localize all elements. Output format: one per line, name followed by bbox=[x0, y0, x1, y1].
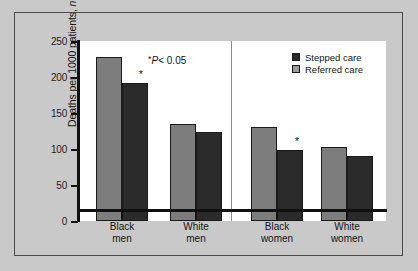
x-tick-black-men bbox=[121, 212, 123, 218]
legend-item-stepped-care: Stepped care bbox=[292, 51, 363, 63]
y-axis-line bbox=[77, 40, 80, 222]
y-tick-label: 150 bbox=[51, 108, 67, 119]
x-label-line-1: Black bbox=[110, 221, 134, 233]
x-label-white-men: White men bbox=[183, 221, 209, 244]
figure-panel: 0 50 100 150 200 250 * bbox=[14, 12, 403, 256]
legend-swatch-icon-referred bbox=[292, 65, 300, 73]
legend-swatch-icon-stepped bbox=[292, 53, 300, 61]
legend-label-stepped: Stepped care bbox=[305, 52, 362, 63]
x-axis-line bbox=[77, 209, 387, 212]
x-label-line-2: women bbox=[331, 233, 363, 245]
x-tick-white-women bbox=[346, 212, 348, 218]
bar-black-women-referred bbox=[251, 127, 277, 221]
x-label-line-1: White bbox=[331, 221, 363, 233]
x-label-black-women: Black women bbox=[261, 221, 293, 244]
x-tick-black-women bbox=[276, 212, 278, 218]
y-tick-label: 50 bbox=[56, 180, 67, 191]
x-tick-white-men bbox=[195, 212, 197, 218]
significance-marker-black-men: * bbox=[139, 69, 143, 80]
x-label-line-2: men bbox=[110, 233, 134, 245]
x-label-white-women: White women bbox=[331, 221, 363, 244]
x-label-line-2: women bbox=[261, 233, 293, 245]
significance-note: *P< 0.05 bbox=[148, 54, 186, 66]
y-tick-label: 100 bbox=[51, 144, 67, 155]
y-tick-label: 250 bbox=[51, 36, 67, 47]
bar-white-men-stepped bbox=[196, 132, 222, 221]
y-axis-title-italic-n: n bbox=[66, 1, 78, 7]
x-label-line-1: Black bbox=[261, 221, 293, 233]
bar-black-men-stepped bbox=[122, 83, 148, 221]
y-tick-label: 0 bbox=[62, 216, 67, 227]
significance-marker-black-women: * bbox=[295, 136, 299, 147]
significance-note-comparison: < 0.05 bbox=[158, 55, 186, 66]
panel-divider bbox=[231, 41, 232, 221]
legend-label-referred: Referred care bbox=[305, 64, 363, 75]
legend-item-referred-care: Referred care bbox=[292, 63, 363, 75]
bar-black-men-referred bbox=[96, 57, 122, 221]
x-label-line-2: men bbox=[183, 233, 209, 245]
bar-white-men-referred bbox=[170, 124, 196, 221]
x-label-black-men: Black men bbox=[110, 221, 134, 244]
x-label-line-1: White bbox=[183, 221, 209, 233]
legend: Stepped care Referred care bbox=[292, 51, 363, 75]
y-tick-label: 200 bbox=[51, 72, 67, 83]
